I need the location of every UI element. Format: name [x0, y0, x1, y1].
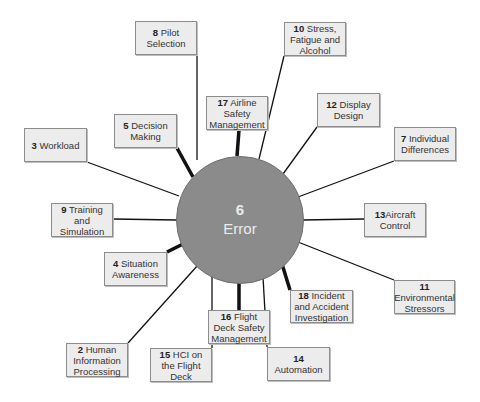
connector-5 — [177, 148, 193, 177]
topic-number: 10 — [294, 23, 305, 34]
topic-label: 4 Situation Awareness — [107, 258, 164, 280]
error-concept-diagram: 8 Pilot Selection10 Stress, Fatigue and … — [0, 0, 480, 402]
topic-text: Individual Differences — [401, 133, 449, 155]
topic-label: 9 Training and Simulation — [54, 204, 110, 237]
topic-label: 3 Workload — [32, 140, 80, 151]
topic-number: 15 — [160, 349, 171, 360]
topic-node-11: 11 Environmental Stressors — [394, 280, 455, 314]
connector-9 — [113, 219, 176, 220]
connector-13 — [302, 219, 364, 220]
topic-label: 15 HCI on the Flight Deck — [153, 349, 209, 382]
topic-node-14: 14 Automation — [267, 347, 330, 381]
topic-node-4: 4 Situation Awareness — [104, 252, 167, 286]
connector-17 — [237, 130, 239, 156]
topic-node-18: 18 Incident and Accident Investigation — [290, 290, 353, 323]
topic-text: Decision Making — [129, 120, 168, 142]
topic-node-7: 7 Individual Differences — [394, 127, 456, 161]
topic-text: Situation Awareness — [112, 258, 159, 280]
hub-label: Error — [223, 219, 256, 239]
topic-number: 14 — [293, 353, 304, 364]
topic-label: 18 Incident and Accident Investigation — [293, 290, 350, 323]
topic-number: 12 — [326, 99, 337, 110]
topic-node-17: 17 Airline Safety Management — [206, 96, 268, 130]
topic-label: 12 Display Design — [320, 99, 377, 121]
topic-text: Aircraft Control — [380, 209, 416, 231]
topic-label: 14 Automation — [270, 353, 327, 375]
topic-label: 17 Airline Safety Management — [209, 97, 265, 130]
topic-node-5: 5 Decision Making — [114, 114, 177, 148]
topic-label: 8 Pilot Selection — [138, 27, 194, 49]
connector-7 — [298, 161, 394, 197]
topic-number: 16 — [221, 311, 232, 322]
topic-node-3: 3 Workload — [24, 128, 87, 162]
topic-label: 10 Stress, Fatigue and Alcohol — [287, 23, 343, 56]
topic-text: Automation — [274, 364, 322, 375]
topic-number: 18 — [298, 290, 309, 301]
topic-number: 17 — [217, 97, 228, 108]
topic-text: Flight Deck Safety Management — [211, 311, 266, 344]
topic-node-9: 9 Training and Simulation — [51, 203, 113, 237]
topic-label: 13Aircraft Control — [367, 209, 423, 231]
topic-node-15: 15 HCI on the Flight Deck — [150, 348, 212, 382]
topic-node-2: 2 Human Information Processing — [66, 343, 128, 377]
topic-label: 5 Decision Making — [117, 120, 174, 142]
topic-label: 2 Human Information Processing — [69, 344, 125, 377]
topic-node-12: 12 Display Design — [317, 93, 380, 127]
topic-node-16: 16 Flight Deck Safety Management — [208, 310, 270, 344]
topic-text: Environmental Stressors — [394, 292, 455, 314]
topic-node-10: 10 Stress, Fatigue and Alcohol — [284, 22, 346, 56]
connector-3 — [87, 162, 179, 196]
hub-node-error: 6 Error — [176, 156, 304, 284]
topic-node-13: 13Aircraft Control — [364, 203, 426, 237]
topic-number: 11 — [419, 281, 429, 292]
connector-12 — [283, 127, 317, 174]
connector-11 — [298, 242, 394, 280]
topic-text: Workload — [37, 140, 80, 151]
topic-text: Training and Simulation — [60, 204, 104, 237]
topic-label: 7 Individual Differences — [397, 133, 453, 155]
topic-node-8: 8 Pilot Selection — [135, 21, 197, 55]
hub-number: 6 — [236, 201, 244, 219]
topic-number: 13 — [375, 209, 386, 220]
connector-18 — [282, 264, 290, 290]
topic-text: Display Design — [334, 99, 371, 121]
topic-label: 16 Flight Deck Safety Management — [211, 311, 267, 344]
topic-label: 11 Environmental Stressors — [394, 281, 455, 314]
